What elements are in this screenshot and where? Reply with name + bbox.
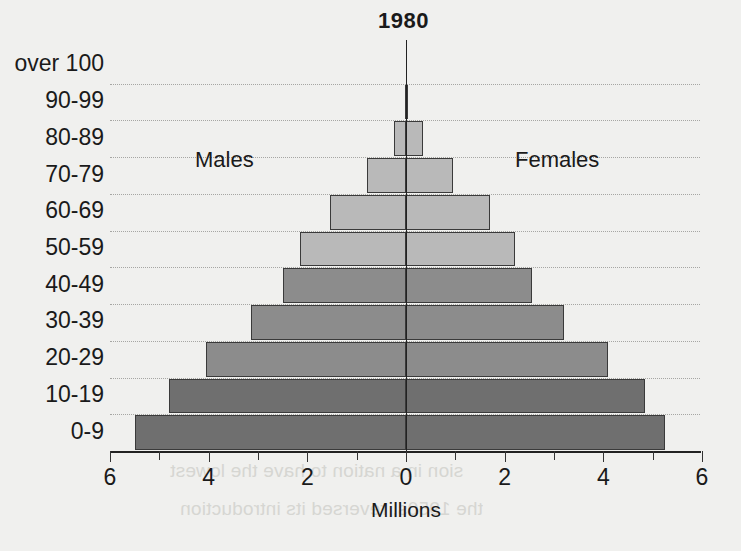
chart-title: 1980 [0,8,741,34]
x-tick [554,451,555,460]
pyramid-row [110,378,700,415]
pyramid-row [110,47,700,84]
x-tick [307,451,308,462]
x-tick [505,451,506,462]
chart-title-text: 1980 [378,8,429,33]
bar-females-50-59 [406,232,515,267]
x-tick [110,451,111,462]
bar-males-10-19 [169,379,406,414]
x-tick [209,451,210,462]
bar-males-60-69 [330,195,406,230]
x-tick [455,451,456,460]
bar-males-40-49 [283,268,406,303]
bar-males-70-79 [367,158,406,193]
series-label-females: Females [515,147,599,173]
x-tick-label: 4 [179,464,239,491]
plot-area [110,47,700,451]
bar-females-0-9 [406,415,665,450]
bar-females-80-89 [406,121,423,156]
bar-females-60-69 [406,195,490,230]
bar-males-20-29 [206,342,406,377]
x-tick [159,451,160,460]
bar-males-50-59 [300,232,406,267]
x-tick-label: 2 [475,464,535,491]
pyramid-row [110,231,700,268]
x-tick [603,451,604,462]
x-tick [406,451,407,462]
x-tick-label: 4 [573,464,633,491]
bar-females-40-49 [406,268,532,303]
x-tick [702,451,703,462]
y-axis-label-20-29: 20-29 [0,344,104,371]
y-axis-label-40-49: 40-49 [0,271,104,298]
x-axis-title: Millions [286,498,526,522]
y-axis-label-over-100: over 100 [0,50,104,77]
bar-males-0-9 [135,415,406,450]
y-axis-label-0-9: 0-9 [0,418,104,445]
pyramid-row [110,194,700,231]
x-tick-label: 6 [672,464,732,491]
x-tick [258,451,259,460]
y-axis-label-60-69: 60-69 [0,197,104,224]
population-pyramid-figure: sion in a nation to have the lowest the … [0,0,741,551]
x-tick [357,451,358,460]
y-axis-label-10-19: 10-19 [0,381,104,408]
x-tick-label: 6 [80,464,140,491]
pyramid-row [110,341,700,378]
bar-females-20-29 [406,342,608,377]
y-axis-label-50-59: 50-59 [0,234,104,261]
bar-females-10-19 [406,379,645,414]
bar-females-70-79 [406,158,453,193]
series-label-males: Males [195,147,254,173]
y-axis-label-70-79: 70-79 [0,161,104,188]
x-tick [653,451,654,460]
pyramid-row [110,304,700,341]
pyramid-row [110,414,700,451]
pyramid-row [110,84,700,121]
x-tick-label: 2 [277,464,337,491]
bar-females-30-39 [406,305,564,340]
y-axis-label-30-39: 30-39 [0,307,104,334]
zero-axis-line [406,40,407,455]
y-axis-label-80-89: 80-89 [0,124,104,151]
x-tick-label: 0 [376,464,436,491]
bar-males-30-39 [251,305,406,340]
bar-males-80-89 [394,121,406,156]
y-axis-label-90-99: 90-99 [0,87,104,114]
pyramid-row [110,267,700,304]
